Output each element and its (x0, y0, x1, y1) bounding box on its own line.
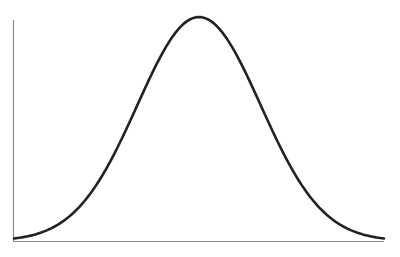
normal-distribution-curve (14, 17, 384, 239)
bell-curve-chart (0, 0, 400, 257)
